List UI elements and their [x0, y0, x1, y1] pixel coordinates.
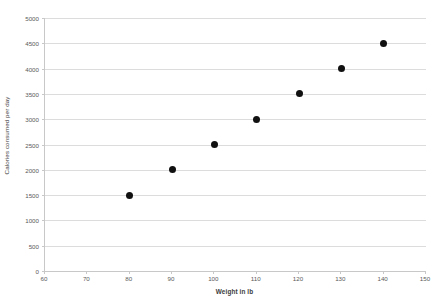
x-axis-tick-label: 130 [335, 275, 345, 282]
data-point [126, 192, 133, 199]
data-point [169, 166, 176, 173]
y-axis-tick-mark [42, 18, 45, 19]
gridline-horizontal [45, 220, 426, 221]
x-axis-tick-mark [171, 271, 172, 274]
data-point [211, 141, 218, 148]
gridline-horizontal [45, 195, 426, 196]
gridline-horizontal [45, 94, 426, 95]
x-axis-tick-label: 100 [208, 275, 218, 282]
gridline-horizontal [45, 69, 426, 70]
data-point [380, 40, 387, 47]
x-axis-tick-label: 60 [41, 275, 48, 282]
y-axis-tick-label: 3500 [25, 90, 39, 97]
x-axis-tick-label: 80 [125, 275, 132, 282]
x-axis-tick-label: 120 [293, 275, 303, 282]
gridline-horizontal [45, 246, 426, 247]
gridline-horizontal [45, 145, 426, 146]
x-axis-title: Weight in lb [44, 288, 425, 295]
y-axis-tick-label: 3000 [25, 116, 39, 123]
y-axis-tick-mark [42, 220, 45, 221]
y-axis-tick-label: 500 [29, 242, 39, 249]
y-axis-tick-mark [42, 170, 45, 171]
x-axis-tick-mark [383, 271, 384, 274]
y-axis-tick-mark [42, 119, 45, 120]
y-axis-tick-mark [42, 69, 45, 70]
data-point [338, 65, 345, 72]
y-axis-tick-label: 1500 [25, 192, 39, 199]
x-axis-tick-mark [298, 271, 299, 274]
plot-area [44, 18, 426, 271]
x-axis-tick-mark [425, 271, 426, 274]
x-axis-tick-labels: 60708090100110120130140150 [44, 275, 425, 287]
y-axis-tick-label: 4000 [25, 65, 39, 72]
y-axis-tick-label: 5000 [25, 15, 39, 22]
x-axis-tick-mark [213, 271, 214, 274]
gridline-horizontal [45, 43, 426, 44]
y-axis-tick-label: 0 [36, 268, 39, 275]
gridline-horizontal [45, 18, 426, 19]
y-axis-tick-mark [42, 145, 45, 146]
y-axis-tick-label: 1000 [25, 217, 39, 224]
x-axis-tick-mark [340, 271, 341, 274]
gridline-horizontal [45, 119, 426, 120]
y-axis-title: Calories consumed per day [0, 0, 14, 271]
x-axis-tick-mark [86, 271, 87, 274]
y-axis-tick-mark [42, 94, 45, 95]
y-axis-tick-mark [42, 195, 45, 196]
y-axis-tick-label: 2000 [25, 166, 39, 173]
x-axis-tick-mark [256, 271, 257, 274]
gridline-horizontal [45, 170, 426, 171]
y-axis-tick-label: 4500 [25, 40, 39, 47]
x-axis-tick-label: 140 [377, 275, 387, 282]
x-axis-tick-mark [44, 271, 45, 274]
y-axis-tick-label: 2500 [25, 141, 39, 148]
x-axis-tick-label: 90 [168, 275, 175, 282]
y-axis-title-label: Calories consumed per day [4, 97, 11, 175]
y-axis-tick-mark [42, 43, 45, 44]
x-axis-tick-label: 70 [83, 275, 90, 282]
x-axis-tick-mark [129, 271, 130, 274]
y-axis-tick-mark [42, 246, 45, 247]
data-point [296, 90, 303, 97]
scatter-chart: Calories consumed per day 05001000150020… [0, 0, 440, 308]
x-axis-tick-label: 150 [420, 275, 430, 282]
data-point [253, 116, 260, 123]
y-axis-tick-labels: 0500100015002000250030003500400045005000 [14, 0, 42, 290]
x-axis-tick-label: 110 [251, 275, 261, 282]
